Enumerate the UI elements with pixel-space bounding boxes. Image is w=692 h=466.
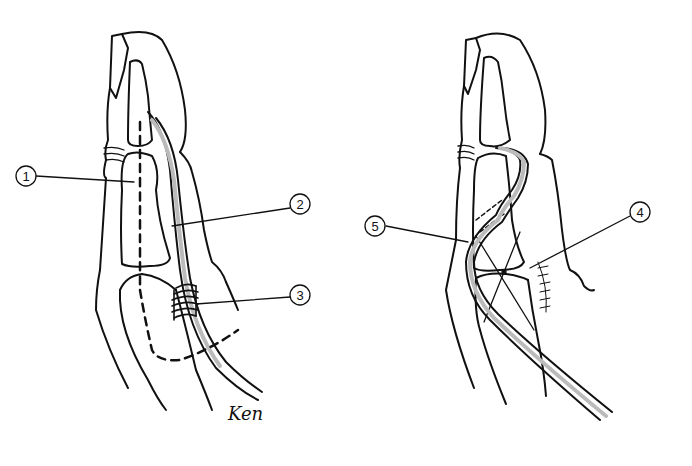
callout-5: 5	[365, 216, 385, 236]
callout-3-number: 3	[296, 288, 303, 303]
callout-2: 2	[290, 194, 310, 214]
incision-dashed-line	[140, 122, 238, 360]
artist-signature: Ken	[227, 403, 263, 424]
callout-1-number: 1	[22, 169, 29, 184]
soft-tissue-hatching	[538, 262, 550, 312]
callout-1: 1	[16, 166, 36, 186]
callout-5-number: 5	[371, 219, 378, 234]
callout-3: 3	[290, 285, 310, 305]
callout-2-leader	[172, 208, 290, 226]
finger-surgery-diagram: 1 2 3 4 5 Ken	[0, 0, 692, 466]
left-finger-illustration	[96, 32, 262, 410]
callout-4-leader	[530, 216, 630, 268]
callout-4: 4	[630, 202, 650, 222]
right-finger-illustration	[446, 33, 612, 420]
callout-2-number: 2	[296, 197, 303, 212]
callout-3-leader	[196, 297, 290, 304]
callout-4-number: 4	[636, 205, 643, 220]
callout-1-leader	[36, 176, 134, 182]
